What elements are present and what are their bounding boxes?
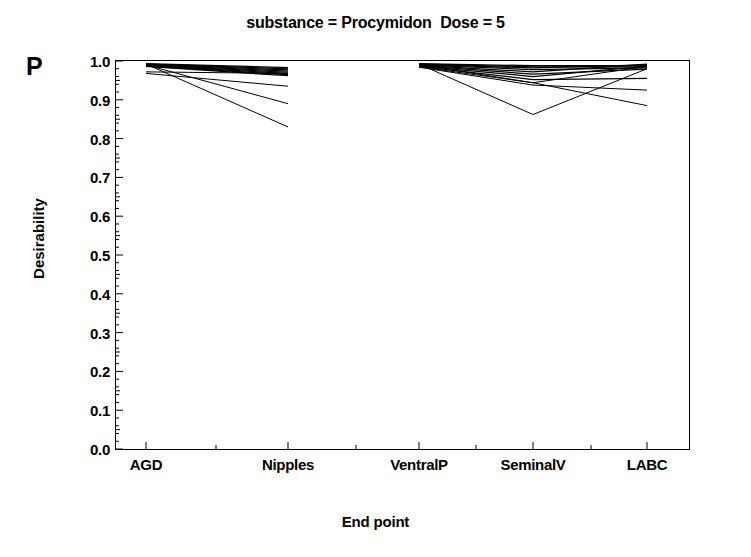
x-axis-title: End point	[0, 513, 751, 530]
y-tick-label: 0.0	[66, 442, 110, 457]
y-tick-label: 0.9	[66, 93, 110, 108]
y-tick-label: 0.4	[66, 287, 110, 302]
x-tick-label: VentralP	[390, 456, 448, 473]
x-tick-label: AGD	[130, 456, 162, 473]
y-axis-title-text: Desirability	[30, 139, 47, 339]
chart-title: substance = Procymidon Dose = 5	[0, 14, 751, 32]
y-tick-label: 0.3	[66, 326, 110, 341]
x-tick-label: SeminalV	[500, 456, 565, 473]
panel-letter-label: P	[26, 52, 43, 81]
y-tick-label: 0.7	[66, 170, 110, 185]
y-axis-title: Desirability	[28, 130, 48, 350]
x-tick-label: Nipples	[262, 456, 314, 473]
y-tick-label: 1.0	[66, 54, 110, 69]
plot-area	[115, 60, 690, 450]
chart-figure: substance = Procymidon Dose = 5 P Desira…	[0, 0, 751, 557]
y-tick-label: 0.2	[66, 364, 110, 379]
y-tick-label: 0.5	[66, 248, 110, 263]
y-tick-label: 0.6	[66, 209, 110, 224]
plot-canvas	[116, 61, 689, 449]
y-tick-label: 0.8	[66, 132, 110, 147]
data-lines	[146, 64, 647, 127]
axis-tick-marks	[116, 61, 647, 449]
y-axis-tick-labels: 1.00.90.80.70.60.50.40.30.20.10.0	[60, 0, 110, 451]
y-tick-label: 0.1	[66, 403, 110, 418]
x-tick-label: LABC	[627, 456, 667, 473]
